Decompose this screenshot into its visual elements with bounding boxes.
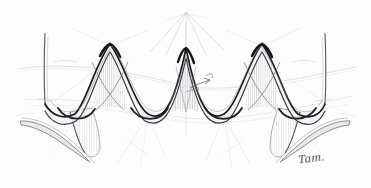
sketch-page: Tam. xyxy=(0,0,371,188)
sketch-canvas xyxy=(0,0,371,188)
